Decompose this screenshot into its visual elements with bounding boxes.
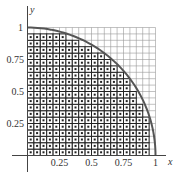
cell-dot [100, 119, 102, 121]
cell-dot [119, 119, 121, 121]
cell-dot [49, 75, 51, 77]
x-tick-label: 0.5 [85, 157, 98, 168]
cell-dot [113, 107, 115, 109]
cell-dot [43, 126, 45, 128]
cell-dot [30, 145, 32, 147]
cell-dot [43, 87, 45, 89]
cell-dot [87, 107, 89, 109]
cell-dot [62, 49, 64, 51]
cell-dot [68, 126, 70, 128]
cell-dot [36, 81, 38, 83]
cell-dot [100, 62, 102, 64]
cell-dot [68, 145, 70, 147]
cell-dot [94, 139, 96, 141]
cell-dot [30, 68, 32, 70]
cell-dot [43, 43, 45, 45]
cell-dot [139, 151, 141, 153]
cell-dot [81, 100, 83, 102]
quarter-circle-grid-figure: x y 0.250.50.7510.250.50.751 [0, 0, 178, 177]
cell-dot [36, 62, 38, 64]
cell-dot [94, 119, 96, 121]
cell-dot [55, 132, 57, 134]
cell-dot [87, 126, 89, 128]
cell-dot [81, 75, 83, 77]
cell-dot [87, 132, 89, 134]
cell-dot [49, 151, 51, 153]
cell-dot [113, 94, 115, 96]
cell-dot [36, 139, 38, 141]
cell-dot [43, 62, 45, 64]
cell-dot [126, 126, 128, 128]
cell-dot [113, 87, 115, 89]
cell-dot [75, 119, 77, 121]
cell-dot [87, 68, 89, 70]
cell-dot [43, 145, 45, 147]
cell-dot [119, 113, 121, 115]
cell-dot [145, 126, 147, 128]
cell-dot [43, 139, 45, 141]
cell-dot [62, 94, 64, 96]
cell-dot [68, 62, 70, 64]
cell-dot [81, 139, 83, 141]
cell-dot [75, 81, 77, 83]
cell-dot [43, 36, 45, 38]
cell-dot [62, 81, 64, 83]
cell-dot [81, 87, 83, 89]
cell-dot [132, 139, 134, 141]
cell-dot [132, 145, 134, 147]
cell-dot [30, 100, 32, 102]
cell-dot [62, 139, 64, 141]
cell-dot [36, 100, 38, 102]
cell-dot [62, 119, 64, 121]
cell-dot [100, 132, 102, 134]
cell-dot [145, 151, 147, 153]
cell-dot [36, 145, 38, 147]
y-tick-label: 1 [18, 22, 23, 33]
cell-dot [107, 68, 109, 70]
cell-dot [49, 132, 51, 134]
cell-dot [55, 43, 57, 45]
cell-dot [94, 126, 96, 128]
cell-dot [43, 132, 45, 134]
cell-dot [68, 113, 70, 115]
cell-dot [126, 145, 128, 147]
cell-dot [36, 68, 38, 70]
cell-dot [62, 36, 64, 38]
cell-dot [68, 139, 70, 141]
cell-dot [94, 100, 96, 102]
cell-dot [139, 119, 141, 121]
cell-dot [30, 43, 32, 45]
cell-dot [68, 55, 70, 57]
cell-dot [49, 62, 51, 64]
cell-dot [94, 132, 96, 134]
cell-dot [126, 81, 128, 83]
cell-dot [81, 68, 83, 70]
cell-dot [49, 43, 51, 45]
cell-dot [43, 81, 45, 83]
cell-dot [62, 100, 64, 102]
cell-dot [81, 119, 83, 121]
cell-dot [107, 145, 109, 147]
cell-dot [55, 68, 57, 70]
cell-dot [75, 145, 77, 147]
cell-dot [36, 132, 38, 134]
cell-dot [139, 107, 141, 109]
cell-dot [30, 62, 32, 64]
cell-dot [81, 126, 83, 128]
cell-dot [139, 132, 141, 134]
cell-dot [132, 119, 134, 121]
cell-dot [113, 151, 115, 153]
cell-dot [55, 87, 57, 89]
cell-dot [94, 94, 96, 96]
y-tick-label: 0.75 [7, 54, 25, 65]
cell-dot [49, 107, 51, 109]
cell-dot [43, 94, 45, 96]
cell-dot [107, 62, 109, 64]
cell-dot [49, 94, 51, 96]
cell-dot [43, 68, 45, 70]
cell-dot [132, 107, 134, 109]
cell-dot [30, 151, 32, 153]
cell-dot [36, 107, 38, 109]
cell-dot [113, 145, 115, 147]
cell-dot [145, 119, 147, 121]
